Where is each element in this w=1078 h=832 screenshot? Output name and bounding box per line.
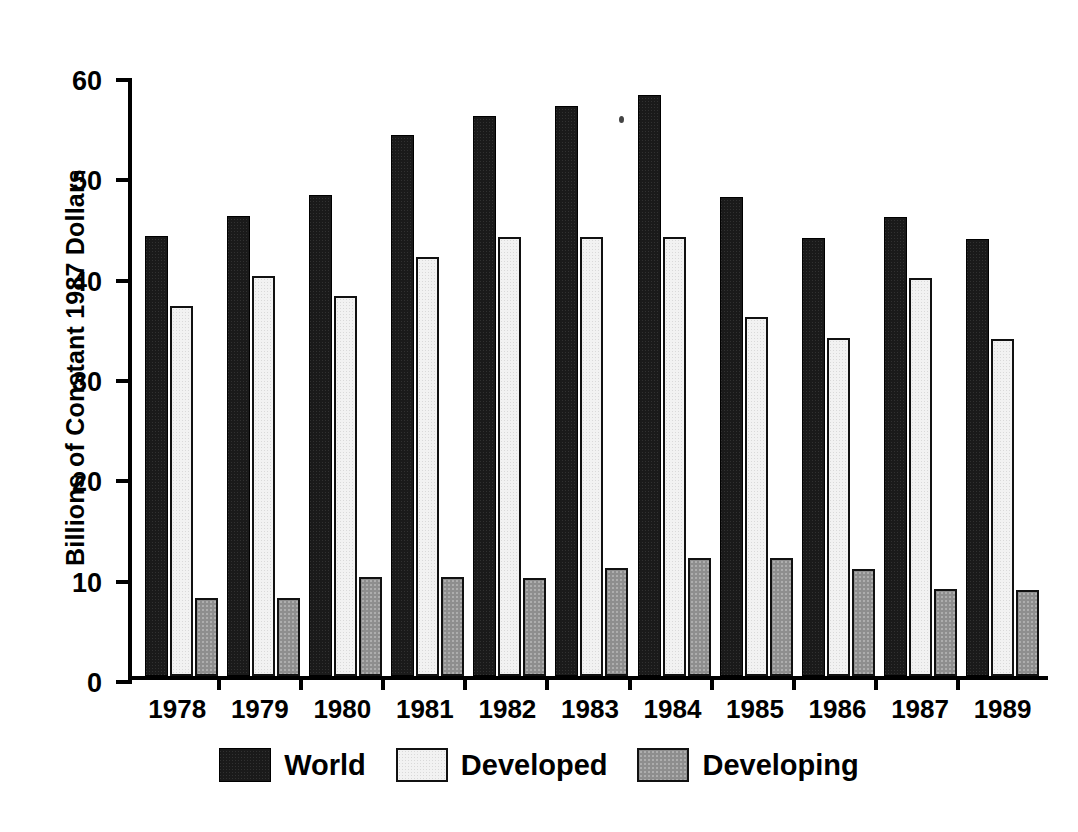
bar-group-1985	[720, 78, 793, 676]
x-axis-label-1980: 1980	[305, 694, 380, 725]
bar-developed-1980	[334, 296, 357, 676]
x-axis-label-1979: 1979	[222, 694, 297, 725]
chart-legend: WorldDevelopedDeveloping	[0, 748, 1078, 782]
x-axis-labels: 1978197919801981198219831984198519861987…	[128, 694, 1048, 725]
x-tick	[628, 676, 632, 690]
y-tick-label: 50	[72, 168, 102, 195]
bar-group-1983	[555, 78, 628, 676]
y-tick-20: 20	[116, 479, 132, 483]
bar-world-1987	[884, 217, 907, 676]
x-axis-label-1982: 1982	[470, 694, 545, 725]
bar-developed-1979	[252, 276, 275, 676]
bar-group-1979	[227, 78, 300, 676]
bar-developing-1984	[688, 558, 711, 676]
bar-developing-1978	[195, 598, 218, 676]
y-tick-label: 20	[72, 469, 102, 496]
bar-group-1984	[638, 78, 711, 676]
x-tick	[463, 676, 467, 690]
bar-developed-1989	[991, 339, 1014, 676]
x-tick	[299, 676, 303, 690]
bar-developing-1981	[441, 577, 464, 676]
bar-developing-1982	[523, 578, 546, 676]
y-tick-30: 30	[116, 379, 132, 383]
bar-world-1982	[473, 116, 496, 676]
white-outline-swatch-icon	[396, 748, 448, 782]
legend-item-developed[interactable]: Developed	[396, 748, 608, 782]
bar-group-1989	[966, 78, 1039, 676]
bar-developing-1983	[605, 568, 628, 676]
x-axis-label-1985: 1985	[717, 694, 792, 725]
bar-developed-1986	[827, 338, 850, 676]
bar-chart-figure: Billions of Constant 1987 Dollars 010203…	[0, 0, 1078, 832]
y-tick-label: 10	[72, 570, 102, 597]
legend-item-world[interactable]: World	[219, 748, 366, 782]
bar-world-1980	[309, 195, 332, 676]
legend-label: World	[284, 749, 366, 782]
bar-groups	[132, 78, 1048, 676]
legend-label: Developing	[702, 749, 858, 782]
x-tick	[956, 676, 960, 690]
bar-developed-1984	[663, 237, 686, 676]
bar-world-1983	[555, 106, 578, 676]
bar-world-1978	[145, 236, 168, 676]
bar-world-1979	[227, 216, 250, 676]
x-tick	[545, 676, 549, 690]
y-tick-label: 0	[87, 670, 102, 697]
bar-group-1986	[802, 78, 875, 676]
y-tick-10: 10	[116, 580, 132, 584]
bar-world-1985	[720, 197, 743, 676]
x-axis-label-1987: 1987	[883, 694, 958, 725]
bar-world-1981	[391, 135, 414, 676]
bar-developed-1985	[745, 317, 768, 676]
x-tick	[381, 676, 385, 690]
gray-textured-swatch-icon	[637, 748, 689, 782]
y-tick-40: 40	[116, 279, 132, 283]
bar-developed-1981	[416, 257, 439, 676]
x-axis-label-1984: 1984	[635, 694, 710, 725]
bar-world-1984	[638, 95, 661, 676]
legend-label: Developed	[461, 749, 608, 782]
bar-world-1986	[802, 238, 825, 676]
x-tick	[710, 676, 714, 690]
bar-group-1987	[884, 78, 957, 676]
bar-developed-1978	[170, 306, 193, 676]
bar-developed-1987	[909, 278, 932, 676]
bar-developing-1985	[770, 558, 793, 676]
x-axis-label-1981: 1981	[387, 694, 462, 725]
bar-group-1978	[145, 78, 218, 676]
bar-group-1981	[391, 78, 464, 676]
y-tick-50: 50	[116, 178, 132, 182]
x-tick	[874, 676, 878, 690]
legend-item-developing[interactable]: Developing	[637, 748, 858, 782]
bar-developing-1980	[359, 577, 382, 676]
x-tick	[792, 676, 796, 690]
x-tick	[217, 676, 221, 690]
bar-developing-1987	[934, 589, 957, 676]
x-axis-ticks	[128, 676, 1048, 690]
x-axis-label-1989: 1989	[965, 694, 1040, 725]
plot-area: 0102030405060	[128, 78, 1048, 680]
y-tick-label: 60	[72, 68, 102, 95]
bar-developed-1983	[580, 237, 603, 676]
bar-world-1989	[966, 239, 989, 676]
y-tick-label: 40	[72, 269, 102, 296]
x-axis-label-1978: 1978	[140, 694, 215, 725]
bar-developing-1979	[277, 598, 300, 676]
dark-textured-swatch-icon	[219, 748, 271, 782]
x-axis-label-1986: 1986	[800, 694, 875, 725]
bar-developing-1989	[1016, 590, 1039, 676]
y-tick-label: 30	[72, 369, 102, 396]
scan-artifact-speck	[619, 116, 624, 123]
bar-group-1980	[309, 78, 382, 676]
bar-group-1982	[473, 78, 546, 676]
y-tick-60: 60	[116, 78, 132, 82]
x-axis-label-1983: 1983	[552, 694, 627, 725]
bar-developed-1982	[498, 237, 521, 676]
bar-developing-1986	[852, 569, 875, 676]
